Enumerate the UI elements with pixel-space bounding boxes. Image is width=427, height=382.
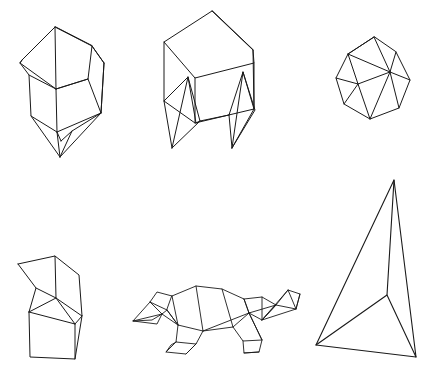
drawing-canvas: [0, 0, 427, 382]
wireframe-figure-group: [0, 0, 427, 382]
canvas-background: [0, 0, 427, 382]
